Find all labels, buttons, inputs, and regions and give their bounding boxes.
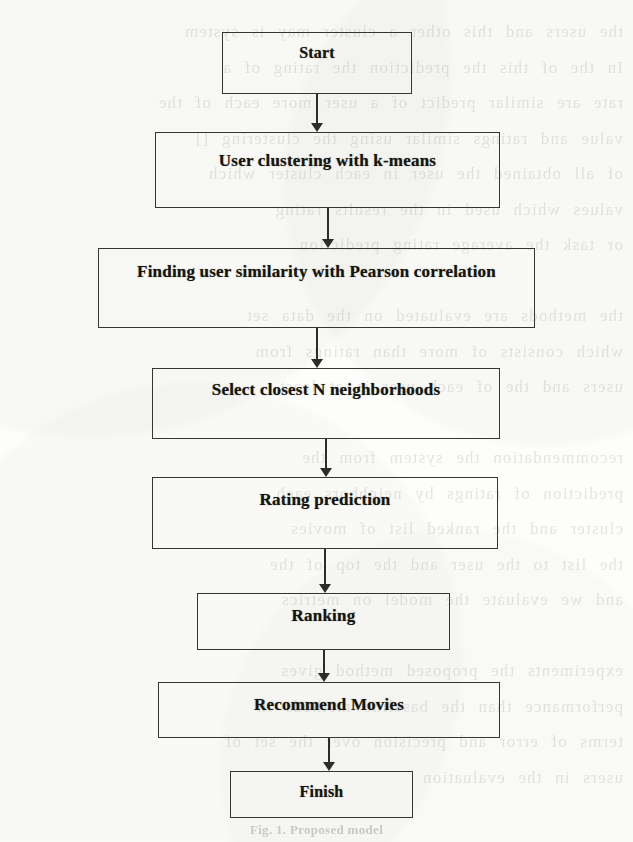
flow-node-user-clustering[interactable]: User clustering with k-means [155,132,500,208]
flow-node-ranking-label: Ranking [198,606,449,626]
flow-node-select-neighborhoods-label: Select closest N neighborhoods [153,380,499,400]
flow-edge-cluster-to-similarity [155,208,500,248]
flow-node-finish-label: Finish [231,783,412,801]
flow-node-rating-prediction-label: Rating prediction [153,490,497,510]
flow-edge-recommend-to-finish [158,738,500,771]
flow-edge-ranking-to-recommend [197,650,450,682]
flow-edge-rating-to-ranking [152,549,498,593]
flow-node-ranking[interactable]: Ranking [197,593,450,650]
flow-node-user-clustering-label: User clustering with k-means [156,151,499,171]
flow-node-start[interactable]: Start [222,32,412,94]
flow-edge-start-to-cluster [222,94,412,132]
flow-node-recommend-movies-label: Recommend Movies [159,695,499,715]
flow-node-find-similarity-label: Finding user similarity with Pearson cor… [99,262,534,282]
flow-edge-neighbors-to-rating [152,439,500,477]
flow-edge-similarity-to-neighbors [98,328,535,368]
flow-node-find-similarity[interactable]: Finding user similarity with Pearson cor… [98,248,535,328]
figure-caption: Fig. 1. Proposed model [0,822,633,838]
flow-node-rating-prediction[interactable]: Rating prediction [152,477,498,549]
flow-node-select-neighborhoods[interactable]: Select closest N neighborhoods [152,368,500,439]
flow-node-start-label: Start [223,44,411,62]
flow-node-finish[interactable]: Finish [230,771,413,818]
flowchart-diagram: Start User clustering with k-means Findi… [0,0,633,842]
flow-node-recommend-movies[interactable]: Recommend Movies [158,682,500,738]
